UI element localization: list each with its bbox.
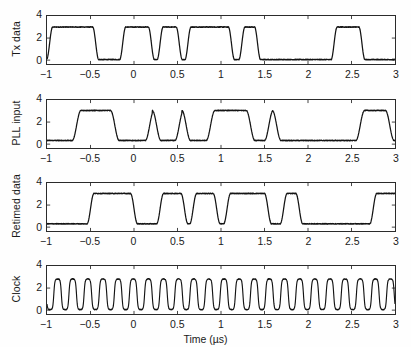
x-tick-label: 0.5 — [157, 318, 197, 330]
waveform-canvas-3 — [47, 183, 395, 231]
plot-area-4 — [46, 265, 396, 315]
x-tick-label: 3 — [376, 235, 411, 247]
x-axis-label: Time (µs) — [0, 333, 411, 345]
y-tick-label: 2 — [22, 198, 42, 210]
x-tick-label: 0.5 — [157, 152, 197, 164]
y-tick-label: 4 — [22, 8, 42, 20]
x-tick-label: −0.5 — [70, 152, 110, 164]
x-tick-label: 2.5 — [332, 68, 372, 80]
x-tick-label: 1.5 — [245, 152, 285, 164]
x-tick-label: −1 — [26, 235, 66, 247]
x-tick-label: 0.5 — [157, 68, 197, 80]
x-tick-label: 2.5 — [332, 152, 372, 164]
y-tick-label: 2 — [22, 31, 42, 43]
x-tick-label: 0 — [114, 235, 154, 247]
x-tick-label: 0 — [114, 152, 154, 164]
y-axis-label-retimed-data: Retimed data — [10, 163, 22, 249]
waveform-canvas-1 — [47, 16, 395, 64]
waveform-canvas-2 — [47, 100, 395, 148]
x-tick-label: 0 — [114, 318, 154, 330]
y-tick-label: 0 — [22, 304, 42, 316]
x-tick-label: 2 — [289, 235, 329, 247]
x-tick-label: −1 — [26, 152, 66, 164]
x-tick-label: 3 — [376, 152, 411, 164]
x-tick-label: 3 — [376, 68, 411, 80]
x-tick-label: 1.5 — [245, 235, 285, 247]
waveform-figure: 024Tx data−1−0.500.511.522.53024PLL inpu… — [0, 0, 411, 347]
y-tick-label: 4 — [22, 258, 42, 270]
y-tick-label: 0 — [22, 221, 42, 233]
y-tick-label: 4 — [22, 92, 42, 104]
x-tick-label: 1.5 — [245, 318, 285, 330]
x-tick-label: 2 — [289, 68, 329, 80]
x-tick-label: 3 — [376, 318, 411, 330]
y-tick-label: 2 — [22, 115, 42, 127]
y-tick-label: 2 — [22, 281, 42, 293]
waveform-trace-retimed-data — [47, 193, 395, 224]
y-tick-label: 0 — [22, 138, 42, 150]
x-tick-label: 2.5 — [332, 235, 372, 247]
x-tick-label: 1 — [201, 235, 241, 247]
x-tick-label: −0.5 — [70, 235, 110, 247]
waveform-trace-clock — [47, 279, 395, 310]
y-tick-label: 4 — [22, 175, 42, 187]
y-axis-label-clock: Clock — [10, 246, 22, 332]
x-tick-label: 2 — [289, 318, 329, 330]
x-tick-label: −1 — [26, 318, 66, 330]
plot-area-1 — [46, 15, 396, 65]
x-tick-label: 1 — [201, 318, 241, 330]
waveform-canvas-4 — [47, 266, 395, 314]
x-tick-label: −0.5 — [70, 68, 110, 80]
x-tick-label: −0.5 — [70, 318, 110, 330]
waveform-trace-pll-input — [47, 110, 395, 141]
x-tick-label: 2.5 — [332, 318, 372, 330]
y-tick-label: 0 — [22, 54, 42, 66]
y-axis-label-pll-input: PLL input — [10, 80, 22, 166]
x-tick-label: 0.5 — [157, 235, 197, 247]
x-tick-label: 1.5 — [245, 68, 285, 80]
y-axis-label-tx-data: Tx data — [10, 0, 22, 82]
plot-area-3 — [46, 182, 396, 232]
x-tick-label: −1 — [26, 68, 66, 80]
x-tick-label: 2 — [289, 152, 329, 164]
x-tick-label: 1 — [201, 68, 241, 80]
x-tick-label: 0 — [114, 68, 154, 80]
x-tick-label: 1 — [201, 152, 241, 164]
plot-area-2 — [46, 99, 396, 149]
waveform-trace-tx-data — [47, 27, 395, 60]
